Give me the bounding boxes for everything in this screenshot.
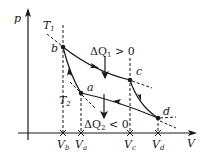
adiabat-extension-d (160, 121, 176, 128)
label-delta-q2: ΔQ2 < 0 (84, 118, 129, 132)
p-axis-label: p (14, 12, 21, 25)
point-c (128, 78, 133, 83)
label-d: d (163, 105, 170, 118)
label-delta-q1: ΔQ1 > 0 (90, 45, 135, 59)
heat-arrows (104, 56, 105, 118)
diagram-svg: p V b (0, 0, 205, 160)
label-t2: T2 (59, 94, 71, 108)
label-vc: Vc (124, 138, 136, 152)
label-vb: Vb (57, 138, 70, 152)
point-d (156, 116, 161, 121)
carnot-cycle-diagram: p V b (0, 0, 205, 160)
label-vd: Vd (152, 138, 165, 152)
point-b (61, 45, 66, 50)
label-a: a (87, 81, 94, 94)
label-t1: T1 (43, 19, 55, 33)
label-b: b (51, 42, 58, 55)
path-d-to-a (81, 93, 158, 118)
t1-extension-right (132, 81, 152, 88)
adiabat-extension-a (82, 95, 95, 108)
label-c: c (136, 65, 142, 78)
t2-extension-left (70, 82, 80, 92)
v-axis-label: V (187, 137, 196, 150)
label-va: Va (75, 138, 87, 152)
volume-guides (63, 25, 158, 133)
point-a (79, 91, 84, 96)
